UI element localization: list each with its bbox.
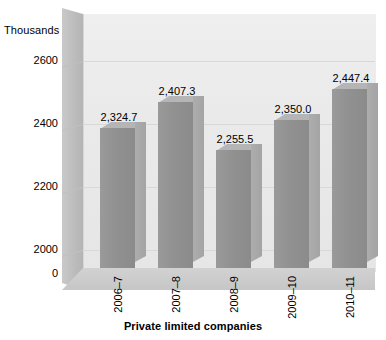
bar-chart: Thousands 2600 2400 2200 2000 0 2,324.7 — [0, 0, 386, 340]
bar-side-face — [135, 122, 146, 262]
y-tick-2400: 2400 — [2, 118, 58, 129]
x-tick-2008-9: 2008–9 — [228, 276, 240, 313]
y-tick-0: 0 — [2, 268, 58, 279]
bar-side-face — [309, 114, 320, 262]
y-tick-2600: 2600 — [2, 55, 58, 66]
bar-side-face — [367, 83, 378, 262]
bar-series: 2,324.7 2,407.3 2,255.5 2,350.0 2,447.4 — [62, 8, 375, 290]
y-tick-2200: 2200 — [2, 181, 58, 192]
y-axis-tick-labels: 2600 2400 2200 2000 0 — [0, 0, 58, 340]
x-axis-title: Private limited companies — [0, 320, 386, 332]
bar-2009-10[interactable]: 2,350.0 — [274, 120, 309, 268]
x-tick-2006-7: 2006–7 — [112, 276, 124, 313]
bar-2006-7[interactable]: 2,324.7 — [100, 128, 135, 268]
x-tick-2009-10: 2009–10 — [286, 276, 298, 319]
bar-front-face — [274, 120, 309, 268]
bar-side-face — [251, 144, 262, 262]
x-tick-2010-11: 2010–11 — [344, 276, 356, 318]
bar-front-face — [158, 102, 193, 268]
bar-value-label-2008-9: 2,255.5 — [217, 133, 254, 145]
x-tick-2007-8: 2007–8 — [170, 276, 182, 313]
bar-2010-11[interactable]: 2,447.4 — [332, 89, 367, 268]
bar-value-label-2007-8: 2,407.3 — [159, 85, 196, 97]
bar-side-face — [193, 96, 204, 262]
y-tick-2000: 2000 — [2, 244, 58, 255]
bar-2007-8[interactable]: 2,407.3 — [158, 102, 193, 268]
bar-front-face — [216, 150, 251, 268]
bar-value-label-2010-11: 2,447.4 — [333, 72, 370, 84]
bar-front-face — [100, 128, 135, 268]
bar-2008-9[interactable]: 2,255.5 — [216, 150, 251, 268]
bar-front-face — [332, 89, 367, 268]
bar-value-label-2009-10: 2,350.0 — [275, 103, 312, 115]
bar-value-label-2006-7: 2,324.7 — [101, 111, 138, 123]
